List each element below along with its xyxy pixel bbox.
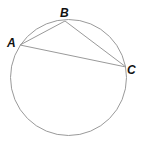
label-a: A <box>6 36 16 50</box>
label-b: B <box>60 6 69 20</box>
segment-ac <box>20 45 126 67</box>
circle-diagram: A B C <box>0 0 142 142</box>
circle <box>11 20 127 136</box>
segment-ab <box>20 21 65 45</box>
label-c: C <box>127 63 136 77</box>
segment-bc <box>65 21 126 67</box>
